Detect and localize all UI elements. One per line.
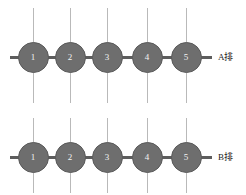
node-b-3[interactable]: 3 <box>92 142 123 173</box>
node-b-1[interactable]: 1 <box>18 142 49 173</box>
node-chain-diagram: 1 2 3 4 5 A排 1 2 3 4 5 B排 <box>0 0 246 195</box>
node-a-3[interactable]: 3 <box>92 42 123 73</box>
node-a-4[interactable]: 4 <box>132 42 163 73</box>
node-b-4[interactable]: 4 <box>132 142 163 173</box>
row-label-a: A排 <box>218 52 234 62</box>
node-b-5[interactable]: 5 <box>171 142 202 173</box>
row-label-b: B排 <box>218 152 233 162</box>
node-a-1[interactable]: 1 <box>18 42 49 73</box>
node-a-2[interactable]: 2 <box>55 42 86 73</box>
node-a-5[interactable]: 5 <box>171 42 202 73</box>
node-b-2[interactable]: 2 <box>55 142 86 173</box>
